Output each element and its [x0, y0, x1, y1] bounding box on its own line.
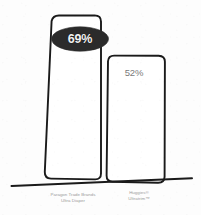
value-badge-paragon	[52, 27, 109, 51]
chart-canvas	[0, 0, 201, 215]
bar-huggies	[107, 56, 165, 183]
bar-chart-figure: 69% 52% Paragon Trade Brands Ultra Diape…	[0, 0, 201, 215]
ground-baseline	[12, 178, 193, 186]
